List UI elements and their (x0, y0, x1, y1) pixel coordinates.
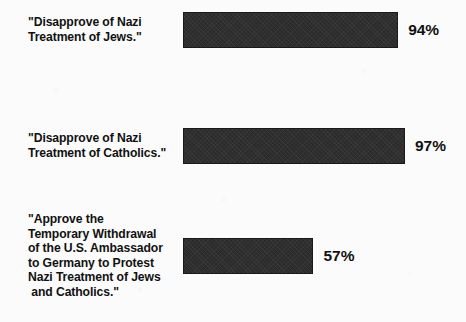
bar-label-disapprove-jews: "Disapprove of Nazi Treatment of Jews." (28, 15, 178, 44)
bar-disapprove-jews[interactable] (183, 12, 398, 48)
bar-label-disapprove-catholics: "Disapprove of Nazi Treatment of Catholi… (28, 131, 178, 160)
bar-row: "Disapprove of Nazi Treatment of Catholi… (0, 128, 466, 164)
bar-row: "Approve the Temporary Withdrawal of the… (0, 238, 466, 274)
bar-value-approve-withdrawal: 57% (323, 247, 354, 265)
bar-label-approve-withdrawal: "Approve the Temporary Withdrawal of the… (28, 212, 178, 300)
bar-track: 97% (183, 128, 466, 164)
bar-track: 94% (183, 12, 466, 48)
bar-value-disapprove-catholics: 97% (415, 137, 446, 155)
bar-row: "Disapprove of Nazi Treatment of Jews." … (0, 12, 466, 48)
horizontal-bar-chart: "Disapprove of Nazi Treatment of Jews." … (0, 0, 466, 322)
bar-disapprove-catholics[interactable] (183, 128, 405, 164)
bar-track: 57% (183, 238, 466, 274)
bar-approve-withdrawal[interactable] (183, 238, 313, 274)
bar-value-disapprove-jews: 94% (408, 21, 439, 39)
